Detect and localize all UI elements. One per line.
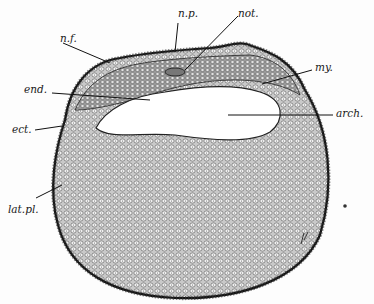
notochord (165, 68, 185, 76)
label-np: n.p. (178, 8, 198, 19)
embryo-section-drawing (0, 0, 374, 304)
label-end: end. (24, 84, 47, 95)
label-nf: n.f. (60, 33, 77, 44)
ink-dot (343, 204, 347, 208)
label-my: my. (315, 62, 333, 73)
figure-canvas: n.p. not. n.f. end. my. arch. ect. lat.p… (0, 0, 374, 304)
label-latpl: lat.pl. (8, 204, 39, 215)
label-not: not. (238, 8, 259, 19)
label-arch: arch. (336, 108, 363, 119)
label-ect: ect. (12, 124, 32, 135)
